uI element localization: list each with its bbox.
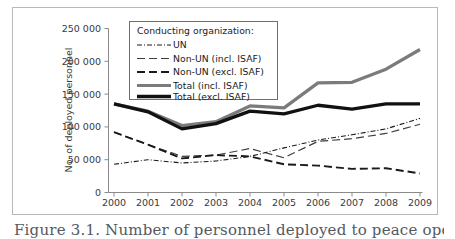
y-axis-title: No. of deployed personnel [63, 48, 74, 173]
x-tick-label: 2006 [306, 197, 330, 208]
legend-label: Non-UN (incl. ISAF) [173, 53, 261, 64]
y-axis-ticks [105, 29, 109, 193]
line-chart: 250 000 200 000 150 000 100 000 50 000 0… [13, 8, 437, 214]
chart-legend: Conducting organization: UN Non-UN (incl… [130, 22, 278, 102]
y-tick-label: 250 000 [62, 23, 101, 34]
x-tick-label: 2003 [204, 197, 228, 208]
x-tick-label: 2005 [272, 197, 296, 208]
x-axis-ticks [114, 193, 420, 197]
x-tick-label: 2002 [170, 197, 194, 208]
x-tick-label: 2004 [238, 197, 262, 208]
legend-title: Conducting organization: [137, 25, 254, 36]
y-tick-label: 0 [95, 187, 101, 198]
series-line-un [114, 118, 420, 164]
x-tick-label: 2007 [340, 197, 364, 208]
x-tick-label: 2001 [136, 197, 160, 208]
legend-label: Total (incl. ISAF) [172, 80, 248, 91]
figure-caption: Figure 3.1. Number of personnel deployed… [14, 221, 444, 239]
x-tick-label: 2000 [102, 197, 126, 208]
figure-container: 250 000 200 000 150 000 100 000 50 000 0… [0, 0, 455, 239]
legend-label: UN [173, 39, 187, 50]
legend-label: Non-UN (excl. ISAF) [173, 66, 264, 77]
x-tick-label: 2009 [408, 197, 432, 208]
x-tick-label: 2008 [374, 197, 398, 208]
chart-frame: 250 000 200 000 150 000 100 000 50 000 0… [12, 7, 438, 215]
legend-label: Total (excl. ISAF) [172, 91, 250, 102]
